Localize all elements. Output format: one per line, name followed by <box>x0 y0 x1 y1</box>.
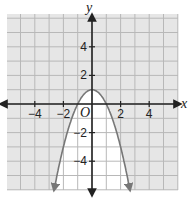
x-tick-label: −2 <box>57 107 71 121</box>
x-axis-label: x <box>180 96 188 111</box>
origin-label: O <box>80 105 90 120</box>
parabola-chart: −4−22442−2−4 x y O <box>0 0 191 201</box>
y-tick-label: −4 <box>73 154 87 168</box>
y-tick-label: 4 <box>80 40 87 54</box>
x-tick-label: 4 <box>146 107 153 121</box>
x-tick-label: 2 <box>117 107 124 121</box>
y-axis-label: y <box>84 0 93 15</box>
x-tick-label: −4 <box>28 107 42 121</box>
y-tick-label: −2 <box>73 126 87 140</box>
y-tick-label: 2 <box>80 68 87 82</box>
